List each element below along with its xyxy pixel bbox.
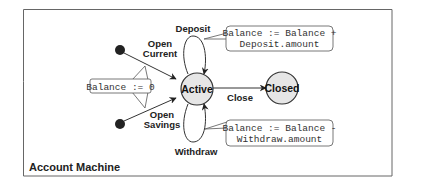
close-label: Close	[227, 92, 253, 103]
diagram-title: Account Machine	[29, 161, 120, 173]
deposit-note-line-1: Balance := Balance +	[222, 28, 336, 39]
diagram-frame	[23, 10, 392, 82]
deposit-note-line-2: Deposit.amount	[240, 39, 320, 50]
deposit-label: Deposit	[176, 23, 212, 34]
transition-deposit[interactable]	[184, 36, 206, 74]
open-current-label-2: Current	[143, 48, 178, 59]
withdraw-note-line-1: Balance := Balance -	[222, 123, 336, 134]
initial-state-current[interactable]	[115, 45, 125, 55]
state-active-label: Active	[181, 83, 213, 95]
initial-state-savings[interactable]	[115, 119, 125, 129]
open-savings-label-2: Savings	[144, 119, 180, 130]
open-note-text: Balance := 0	[86, 82, 155, 93]
withdraw-note-line-2: Withdraw.amount	[237, 134, 323, 145]
state-machine-diagram: Open Current Open Savings Balance := 0 A…	[0, 0, 425, 189]
withdraw-label: Withdraw	[175, 146, 218, 157]
state-closed-label: Closed	[264, 82, 299, 94]
transition-withdraw[interactable]	[184, 104, 206, 142]
